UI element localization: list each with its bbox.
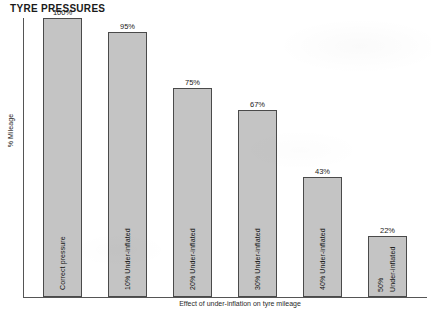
chart-page: TYRE PRESSURES % Mileage 100% Correct pr… bbox=[0, 0, 431, 310]
bar-rect[interactable]: 20% Under-inflated bbox=[173, 88, 212, 297]
bar-value-label: 100% bbox=[43, 8, 82, 17]
x-axis-line bbox=[23, 297, 427, 298]
bar-category-label-line2: Under-inflated bbox=[389, 247, 397, 292]
bar-category-label: 40% Under-inflated bbox=[319, 228, 327, 290]
bar-group: 75% 20% Under-inflated bbox=[173, 18, 212, 297]
bar-group: 43% 40% Under-inflated bbox=[303, 18, 342, 297]
bar-category-label-line1: 50% bbox=[377, 278, 385, 292]
bar-rect[interactable]: Correct pressure bbox=[43, 18, 82, 297]
bar-group: 100% Correct pressure bbox=[43, 18, 82, 297]
x-axis-label: Effect of under-inflation on tyre mileag… bbox=[120, 300, 360, 307]
y-axis-label: % Mileage bbox=[7, 105, 14, 157]
bar-group: 22% 50% Under-inflated bbox=[368, 18, 407, 297]
bar-rect[interactable]: 40% Under-inflated bbox=[303, 177, 342, 297]
bar-rect[interactable]: 30% Under-inflated bbox=[238, 110, 277, 297]
bar-rect[interactable]: 10% Under-inflated bbox=[108, 32, 147, 297]
bar-group: 95% 10% Under-inflated bbox=[108, 18, 147, 297]
bar-value-label: 95% bbox=[108, 22, 147, 31]
bar-value-label: 67% bbox=[238, 100, 277, 109]
bar-category-label: 10% Under-inflated bbox=[124, 228, 132, 290]
bar-rect[interactable]: 50% Under-inflated bbox=[368, 236, 407, 297]
bar-category-label: 20% Under-inflated bbox=[189, 228, 197, 290]
bar-category-label: 30% Under-inflated bbox=[254, 228, 262, 290]
bar-value-label: 75% bbox=[173, 78, 212, 87]
bar-value-label: 22% bbox=[368, 226, 407, 235]
plot-area: 100% Correct pressure 95% 10% Under-infl… bbox=[24, 18, 427, 297]
bar-category-label: Correct pressure bbox=[59, 236, 67, 290]
bar-value-label: 43% bbox=[303, 167, 342, 176]
bar-group: 67% 30% Under-inflated bbox=[238, 18, 277, 297]
